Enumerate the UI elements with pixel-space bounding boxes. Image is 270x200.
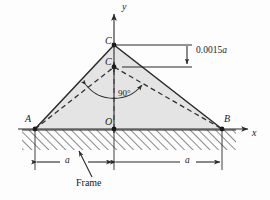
- dimension-label-a-right: a: [185, 156, 190, 166]
- x-axis-label: x: [252, 128, 256, 138]
- point-label-o: O: [105, 117, 112, 127]
- dimension-label-a-left: a: [65, 156, 70, 166]
- frame-deflection-figure: y x C C1 A B O 90° 0.0015a a a Frame: [0, 0, 270, 200]
- diagram-canvas: [0, 0, 270, 200]
- y-axis-label: y: [122, 2, 126, 12]
- point-label-c1-base: C: [105, 56, 112, 67]
- deflection-unit: a: [222, 45, 227, 55]
- deflection-value: 0.0015: [196, 45, 222, 55]
- point-label-b: B: [224, 114, 230, 124]
- point-label-a: A: [25, 114, 31, 124]
- angle-label-90: 90°: [118, 89, 131, 98]
- point-label-c1-subscript: 1: [112, 62, 115, 69]
- point-label-c1: C1: [105, 57, 115, 70]
- point-label-c: C: [105, 36, 112, 46]
- deflection-label: 0.0015a: [196, 46, 227, 56]
- frame-label: Frame: [76, 178, 102, 188]
- frame-triangle-shape: [35, 45, 222, 129]
- frame-leader-line: [79, 151, 92, 177]
- ground-hatching: [22, 130, 236, 150]
